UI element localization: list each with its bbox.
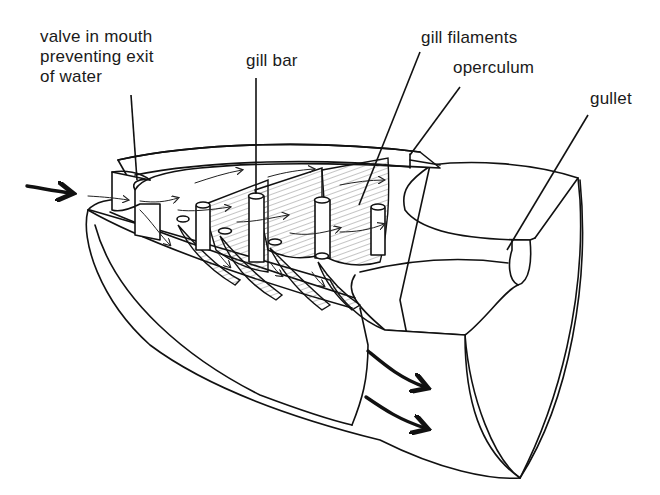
label-valve: valve in mouth preventing exit of water — [40, 27, 154, 87]
label-gill-bar: gill bar — [246, 51, 298, 71]
label-operculum: operculum — [453, 58, 534, 78]
operculum-leader — [410, 87, 460, 155]
label-gullet: gullet — [590, 89, 632, 109]
inflow-arrow — [27, 186, 70, 193]
label-gill-filaments: gill filaments — [421, 28, 517, 48]
gill-diagram: valve in mouth preventing exit of water … — [0, 0, 660, 495]
